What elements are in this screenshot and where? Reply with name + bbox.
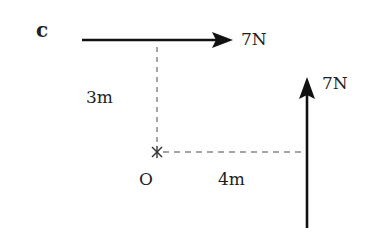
pivot-marker-icon [152,146,162,158]
top-force-label: 7N [241,29,267,49]
vertical-distance-label: 3m [86,87,113,107]
pivot-label: O [139,169,153,189]
horizontal-distance-label: 4m [218,169,245,189]
right-force-arrow [299,77,315,228]
top-force-arrow [82,32,233,48]
part-label: c [36,18,48,42]
right-force-label: 7N [322,73,348,93]
force-diagram: c 7N 3m O 4m 7N [0,0,384,233]
